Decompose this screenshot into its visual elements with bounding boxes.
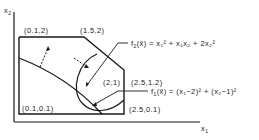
vertex-label-bottom-right: (2.5,0.1) <box>129 105 161 114</box>
vertex-label-top-mid: (1.5,2) <box>80 26 105 35</box>
vertex-label-top-left: (0.1,2) <box>24 26 49 35</box>
arrowhead-icon <box>84 64 89 68</box>
x-axis-label: x1 <box>201 124 208 134</box>
f1-label: f1(x̄) = (x₁−2)² + (x₂−1)² <box>151 87 237 97</box>
vertex-label-right-upper: (2.5,1.2) <box>131 78 163 87</box>
f2-gradient-arrow <box>40 48 48 67</box>
vertex-label-center: (2,1) <box>103 78 121 87</box>
y-axis-label: x2 <box>4 6 11 16</box>
feasible-region <box>19 37 124 114</box>
feasible-region-diagram: x2 x1 (0.1,2) (1.5,2) (2.5,1.2) (0.1,0.1… <box>0 0 259 140</box>
vertex-label-bottom-left: (0.1,0.1) <box>22 104 54 113</box>
arrowhead-icon <box>46 46 50 51</box>
f2-label: f2(x̄) = x₁² + x₁x₂ + 2x₂² <box>131 39 215 49</box>
